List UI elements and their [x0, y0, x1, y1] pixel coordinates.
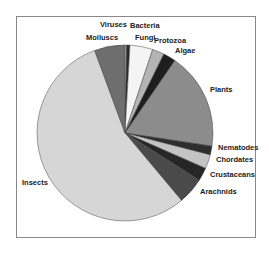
- slice-label-plants: Plants: [210, 85, 233, 94]
- slice-label-insects: Insects: [22, 178, 48, 187]
- slice-label-chordates: Chordates: [216, 155, 253, 164]
- slice-label-fungi: Fungi: [135, 33, 155, 42]
- pie-chart: VirusesBacteriaFungiProtozoaAlgaePlantsN…: [0, 0, 269, 254]
- slice-label-crustaceans: Crustaceans: [210, 170, 255, 179]
- slice-label-molluscs: Molluscs: [86, 33, 118, 42]
- slice-label-viruses: Viruses: [100, 20, 127, 29]
- slice-label-protozoa: Protozoa: [154, 36, 187, 45]
- slice-label-nematodes: Nematodes: [218, 143, 258, 152]
- slice-label-algae: Algae: [175, 46, 195, 55]
- slice-label-bacteria: Bacteria: [130, 21, 160, 30]
- slice-label-arachnids: Arachnids: [200, 187, 237, 196]
